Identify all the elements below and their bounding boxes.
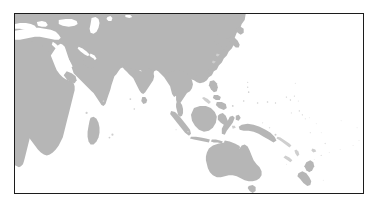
chatham-island xyxy=(323,180,324,181)
chuuk-island xyxy=(257,102,259,104)
world-map-canvas xyxy=(15,14,363,193)
kermadec-island xyxy=(314,159,315,160)
tuvalu-islands xyxy=(310,132,311,133)
marshall-island-d xyxy=(298,100,299,101)
line-islands xyxy=(341,120,342,121)
chagos-island xyxy=(134,108,136,110)
tonga-islands xyxy=(321,155,322,156)
christmas-island xyxy=(187,131,188,132)
gilbert-island-b xyxy=(302,114,303,115)
norfolk-island xyxy=(286,164,287,165)
mauritius-island xyxy=(111,134,113,136)
saipan-island xyxy=(247,86,248,87)
marquesas-islands xyxy=(357,127,358,128)
maldives-island xyxy=(129,98,131,100)
bismarck-islands xyxy=(269,127,270,128)
society-islands xyxy=(353,145,354,146)
marshall-island-b xyxy=(290,99,291,100)
admiralty-islands xyxy=(262,122,263,123)
yap-island xyxy=(243,100,245,102)
tokelau-islands xyxy=(321,132,322,133)
samoa-islands xyxy=(325,143,326,144)
reunion-island xyxy=(109,137,111,139)
map-figure xyxy=(0,0,379,208)
bougainville-island xyxy=(275,134,277,136)
nauru-island xyxy=(291,112,292,113)
phoenix-islands xyxy=(316,123,317,124)
gilbert-island-c xyxy=(305,118,306,119)
tuamotu-islands xyxy=(359,140,360,141)
guam-island xyxy=(248,91,250,93)
seychelles-island xyxy=(103,100,105,102)
howland-baker-island xyxy=(309,117,310,118)
niue-island xyxy=(329,152,330,153)
kosrae-island xyxy=(275,102,276,103)
wake-island xyxy=(295,83,296,84)
marshall-island-c xyxy=(294,95,295,96)
comoros-island xyxy=(85,112,87,114)
palau-island xyxy=(232,105,234,107)
map-frame-border xyxy=(14,13,364,194)
cook-islands xyxy=(340,149,341,150)
cocos-island xyxy=(175,129,176,130)
northern-mariana-island xyxy=(247,82,248,83)
pohnpei-island xyxy=(267,101,269,103)
marshall-island-a xyxy=(286,96,287,97)
gilbert-island-a xyxy=(299,110,300,111)
